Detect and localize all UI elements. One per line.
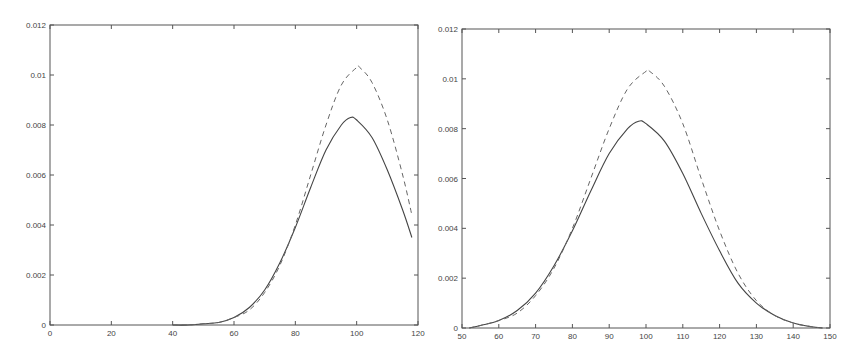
y-tick-label: 0.01 bbox=[30, 71, 46, 80]
x-tick-label: 130 bbox=[750, 332, 764, 341]
y-tick-label: 0.008 bbox=[26, 121, 47, 130]
x-tick-label: 0 bbox=[48, 329, 53, 338]
y-tick-label: 0.006 bbox=[438, 175, 459, 184]
x-tick-label: 140 bbox=[787, 332, 801, 341]
plot-frame bbox=[50, 25, 418, 325]
series-dashed-line bbox=[173, 65, 412, 325]
x-tick-label: 40 bbox=[168, 329, 177, 338]
y-tick-label: 0.002 bbox=[438, 274, 459, 283]
y-tick-label: 0.004 bbox=[438, 224, 459, 233]
x-tick-label: 60 bbox=[494, 332, 503, 341]
x-tick-label: 50 bbox=[458, 332, 467, 341]
x-tick-label: 20 bbox=[107, 329, 116, 338]
chart-left-plot: 00.0020.0040.0060.0080.010.0120204060801… bbox=[0, 0, 430, 357]
x-tick-label: 80 bbox=[291, 329, 300, 338]
y-tick-label: 0 bbox=[42, 321, 47, 330]
x-tick-label: 120 bbox=[713, 332, 727, 341]
y-tick-label: 0.006 bbox=[26, 171, 47, 180]
x-tick-label: 110 bbox=[676, 332, 689, 341]
chart-left: 00.0020.0040.0060.0080.010.0120204060801… bbox=[0, 0, 430, 357]
chart-right-plot: 00.0020.0040.0060.0080.010.0125060708090… bbox=[430, 0, 857, 357]
y-tick-label: 0.004 bbox=[26, 221, 47, 230]
y-tick-label: 0.002 bbox=[26, 271, 47, 280]
x-tick-label: 60 bbox=[230, 329, 239, 338]
x-tick-label: 100 bbox=[639, 332, 653, 341]
chart-right: 00.0020.0040.0060.0080.010.0125060708090… bbox=[430, 0, 857, 357]
y-tick-label: 0.012 bbox=[26, 21, 47, 30]
plot-frame bbox=[462, 29, 830, 328]
y-tick-label: 0.008 bbox=[438, 125, 459, 134]
x-tick-label: 100 bbox=[350, 329, 364, 338]
x-tick-label: 90 bbox=[605, 332, 614, 341]
x-tick-label: 70 bbox=[531, 332, 540, 341]
x-tick-label: 150 bbox=[823, 332, 837, 341]
series-solid-line bbox=[469, 121, 822, 328]
y-tick-label: 0.012 bbox=[438, 25, 459, 34]
x-tick-label: 120 bbox=[411, 329, 425, 338]
x-tick-label: 80 bbox=[568, 332, 577, 341]
series-solid-line bbox=[173, 117, 412, 325]
series-dashed-line bbox=[469, 69, 822, 328]
y-tick-label: 0.01 bbox=[442, 75, 458, 84]
